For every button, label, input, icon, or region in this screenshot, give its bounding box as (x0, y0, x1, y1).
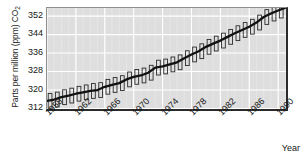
y-axis-tick-labels: 312320328336344352 (14, 0, 43, 156)
seasonal-bar (272, 8, 276, 21)
plot-area (46, 7, 288, 111)
y-tick-label: 312 (17, 103, 43, 112)
y-tick-label: 320 (17, 85, 43, 94)
y-tick-label: 352 (17, 11, 43, 20)
y-tick-label: 328 (17, 66, 43, 75)
co2-chart-figure: Parts per million (ppm) CO2 312320328336… (0, 0, 308, 156)
x-axis-tick-labels: 195819621966197019741978198219861990 (46, 111, 288, 141)
y-tick-label: 344 (17, 29, 43, 38)
plot-svg (47, 8, 288, 111)
x-axis-title: Year (282, 143, 300, 153)
seasonal-bar (287, 8, 288, 15)
y-tick-label: 336 (17, 48, 43, 57)
